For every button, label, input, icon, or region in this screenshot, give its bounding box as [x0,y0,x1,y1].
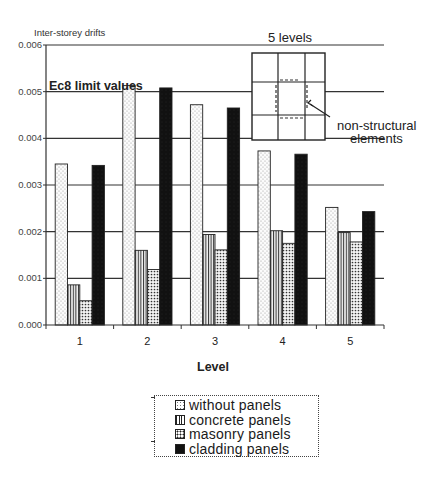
bar-masonry-panels [215,250,227,325]
inset-note-line2: elements [350,131,403,146]
bar-without-panels [190,105,202,325]
inset-plan-diagram: 5 levels non-structural elements [252,30,417,146]
bar-cladding-panels [92,165,104,325]
y-tick-label: 0.001 [18,272,42,283]
legend-label: without panels [189,398,281,412]
y-tick-label: 0.006 [18,39,42,50]
bar-cladding-panels [363,212,375,325]
bar-concrete-panels [135,250,147,325]
y-tick-label: 0.003 [18,179,42,190]
x-tick-label: 1 [77,335,83,347]
bar-masonry-panels [80,301,92,325]
bar-masonry-panels [350,242,362,325]
legend: without panels concrete panels masonry p… [154,395,319,457]
y-tick-label: 0.002 [18,226,42,237]
bar-without-panels [258,151,270,325]
legend-label: cladding panels [189,442,289,456]
legend-item-concrete-panels: concrete panels [175,413,318,428]
bar-without-panels [55,164,67,325]
stripes-swatch-icon [175,415,185,425]
x-tick-label: 3 [212,335,218,347]
bar-masonry-panels [147,269,159,325]
ec8-limit-label: Ec8 limit values [49,79,143,93]
bar-concrete-panels [270,231,282,325]
x-tick-label: 5 [347,335,353,347]
legend-item-without-panels: without panels [175,398,318,413]
bar-without-panels [123,86,135,325]
bar-cladding-panels [227,108,239,325]
dense-dots-swatch-icon [175,429,185,439]
bar-cladding-panels [160,88,172,325]
y-axis-title: Inter-storey drifts [34,27,106,38]
x-axis-title: Level [197,360,229,374]
legend-item-cladding-panels: cladding panels [175,442,318,457]
legend-label: masonry panels [189,427,291,441]
light-dots-swatch-icon [175,400,185,410]
solid-swatch-icon [175,444,185,454]
y-tick-label: 0.004 [18,132,42,143]
x-tick-label: 4 [280,335,286,347]
bar-concrete-panels [203,234,215,325]
bars [55,86,375,325]
y-tick-label: 0.005 [18,86,42,97]
x-tick-label: 2 [144,335,150,347]
bar-cladding-panels [295,154,307,325]
y-tick-label: 0.000 [18,319,42,330]
bar-without-panels [326,207,338,325]
inset-title: 5 levels [268,30,313,45]
legend-label: concrete panels [189,413,291,427]
y-axis-ticks: 0.0000.0010.0020.0030.0040.0050.006 [18,39,46,330]
bar-concrete-panels [338,233,350,325]
bar-concrete-panels [68,285,80,325]
legend-item-masonry-panels: masonry panels [175,427,318,442]
bar-masonry-panels [283,243,295,325]
